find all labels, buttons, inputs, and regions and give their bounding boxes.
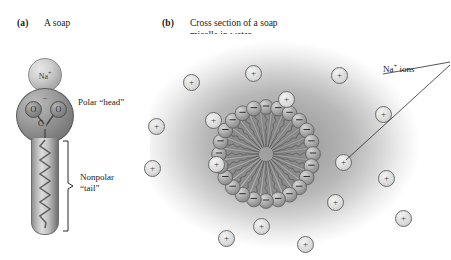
polar-head-sphere: O O C −: [16, 88, 74, 144]
sodium-ion-sphere: Na+: [28, 58, 62, 92]
negative-charge-label: −: [42, 93, 47, 103]
nonpolar-tail-label-line1: Nonpolar: [80, 172, 114, 183]
panel-b-tag: (b): [162, 18, 174, 28]
sodium-ion-label: Na+: [39, 70, 52, 81]
oxygen-atom-left: O: [25, 101, 42, 118]
nonpolar-tail-cylinder: [31, 138, 59, 235]
carbon-atom: C: [38, 119, 43, 128]
polar-head-label: Polar “head”: [78, 97, 124, 107]
nonpolar-tail-label: Nonpolar “tail”: [80, 172, 114, 194]
hydrocarbon-chain-zigzag: [32, 138, 58, 234]
nonpolar-tail-label-line2: “tail”: [80, 183, 114, 194]
sodium-ions-annotation-label: Na+ ions: [383, 62, 414, 74]
panel-a-tag: (a): [17, 18, 29, 28]
oxygen-atom-right: O: [50, 101, 67, 118]
figure-root: (a) A soap (b) Cross section of a soap m…: [0, 0, 451, 260]
nonpolar-tail-bracket: [62, 140, 76, 232]
leader-line: [346, 65, 450, 160]
panel-a-caption: A soap: [44, 18, 70, 30]
